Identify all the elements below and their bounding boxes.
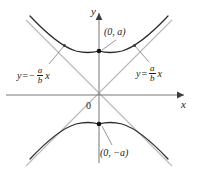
asymptote-negative-equals: = (22, 71, 28, 81)
asymptote-positive-lhs: y (136, 69, 140, 79)
asymptote-negative-denominator: b (37, 76, 44, 85)
lower-vertex-label: (0, −a) (100, 148, 128, 158)
asymptote-negative-leader-dot (63, 44, 66, 47)
hyperbola-figure: y x 0 (0, a) (0, −a) y = − a b x y = a b… (0, 0, 197, 169)
lower-vertex-dot (97, 122, 102, 127)
asymptote-positive-leader-line (135, 46, 149, 62)
asymptote-positive-fraction: a b (149, 64, 156, 83)
asymptote-positive-numerator: a (149, 64, 156, 73)
asymptote-positive-equation: y = a b x (136, 64, 162, 83)
asymptote-positive-leader-dot (133, 44, 136, 47)
asymptote-negative-sign: − (29, 71, 35, 81)
origin-label: 0 (86, 101, 91, 111)
asymptote-positive-variable: x (158, 69, 162, 79)
lower-vertex-leader-line (102, 126, 112, 145)
asymptote-negative-lhs: y (17, 71, 21, 81)
y-axis-label: y (91, 6, 96, 17)
upper-vertex-dot (97, 49, 102, 54)
x-axis-label: x (181, 99, 186, 110)
y-axis-arrowhead (96, 13, 103, 20)
asymptote-negative-numerator: a (37, 66, 44, 75)
asymptote-negative-fraction: a b (37, 66, 44, 85)
upper-vertex-label: (0, a) (104, 27, 126, 37)
asymptote-negative-equation: y = − a b x (17, 66, 50, 85)
asymptote-positive-equals: = (141, 69, 147, 79)
upper-vertex-leader-line (102, 40, 116, 50)
asymptote-positive-denominator: b (149, 74, 156, 83)
asymptote-negative-variable: x (45, 71, 49, 81)
